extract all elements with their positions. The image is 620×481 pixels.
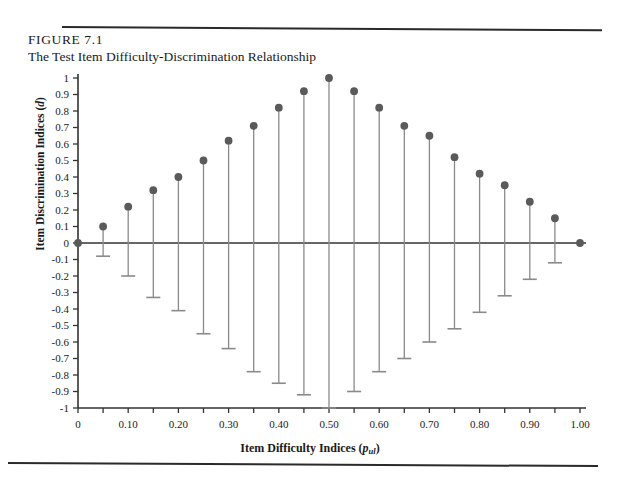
data-point-marker	[300, 87, 308, 95]
data-point-marker	[426, 132, 434, 140]
y-tick-label: -0.8	[52, 369, 70, 381]
y-axis-title-suffix: )	[34, 97, 46, 101]
data-point-marker	[200, 157, 208, 165]
chart-svg: 10.90.80.70.60.50.40.30.20.10-0.1-0.2-0.…	[0, 0, 620, 481]
y-axis-title-symbol: d	[34, 101, 46, 107]
x-axis-title: Item Difficulty Indices (pul)	[130, 441, 490, 456]
data-point-marker	[99, 223, 107, 231]
y-tick-label: -0.5	[52, 319, 70, 331]
y-tick-label: 1	[64, 72, 70, 84]
data-point-marker	[551, 214, 559, 222]
y-tick-label: -0.3	[52, 286, 70, 298]
y-tick-label: 0.7	[55, 121, 69, 133]
x-tick-label: 0.90	[520, 418, 540, 430]
y-tick-label: 0.5	[55, 154, 69, 166]
data-point-marker	[451, 153, 459, 161]
data-point-marker	[576, 239, 584, 247]
data-point-marker	[526, 198, 534, 206]
y-tick-label: -1	[60, 402, 69, 414]
y-tick-label: -0.2	[52, 270, 69, 282]
x-axis-title-prefix: Item Difficulty Indices (	[240, 441, 362, 455]
data-point-marker	[325, 74, 333, 82]
y-tick-label: 0.3	[55, 187, 69, 199]
x-axis-title-suffix: )	[376, 441, 380, 455]
data-point-marker	[225, 137, 233, 145]
x-tick-label: 0.60	[370, 418, 390, 430]
data-point-marker	[476, 170, 484, 178]
y-tick-label: 0.4	[55, 171, 69, 183]
y-tick-label: 0.2	[55, 204, 69, 216]
x-tick-label: 0.50	[319, 418, 339, 430]
y-tick-label: -0.4	[52, 303, 70, 315]
figure-panel: FIGURE 7.1 The Test Item Difficulty-Disc…	[0, 0, 620, 481]
x-axis-title-subscript: ul	[369, 446, 376, 456]
x-tick-label: 1.00	[570, 418, 590, 430]
y-tick-label: -0.1	[52, 253, 69, 265]
data-point-marker	[375, 104, 383, 112]
y-axis-title-prefix: Item Discrimination Indices (	[34, 107, 46, 251]
x-tick-label: 0	[75, 418, 81, 430]
data-point-marker	[250, 122, 258, 130]
y-tick-label: -0.7	[52, 352, 70, 364]
data-point-marker	[149, 186, 157, 194]
y-tick-label: -0.6	[52, 336, 70, 348]
x-tick-label: 0.10	[119, 418, 139, 430]
data-point-marker	[350, 87, 358, 95]
y-tick-label: -0.9	[52, 385, 70, 397]
data-point-marker	[124, 203, 132, 211]
data-point-marker	[400, 122, 408, 130]
chart-area: 10.90.80.70.60.50.40.30.20.10-0.1-0.2-0.…	[0, 0, 620, 481]
data-point-marker	[501, 181, 509, 189]
x-tick-label: 0.80	[470, 418, 490, 430]
x-tick-label: 0.70	[420, 418, 440, 430]
y-tick-label: 0.1	[55, 220, 69, 232]
y-tick-label: 0	[64, 237, 70, 249]
y-tick-label: 0.6	[55, 138, 69, 150]
y-tick-label: 0.9	[55, 88, 69, 100]
data-point-marker	[175, 173, 183, 181]
x-tick-label: 0.40	[269, 418, 289, 430]
y-axis-title: Item Discrimination Indices (d)	[34, 74, 46, 274]
data-point-marker	[275, 104, 283, 112]
x-tick-label: 0.20	[169, 418, 189, 430]
x-tick-label: 0.30	[219, 418, 239, 430]
data-point-marker	[74, 239, 82, 247]
y-tick-label: 0.8	[55, 105, 69, 117]
